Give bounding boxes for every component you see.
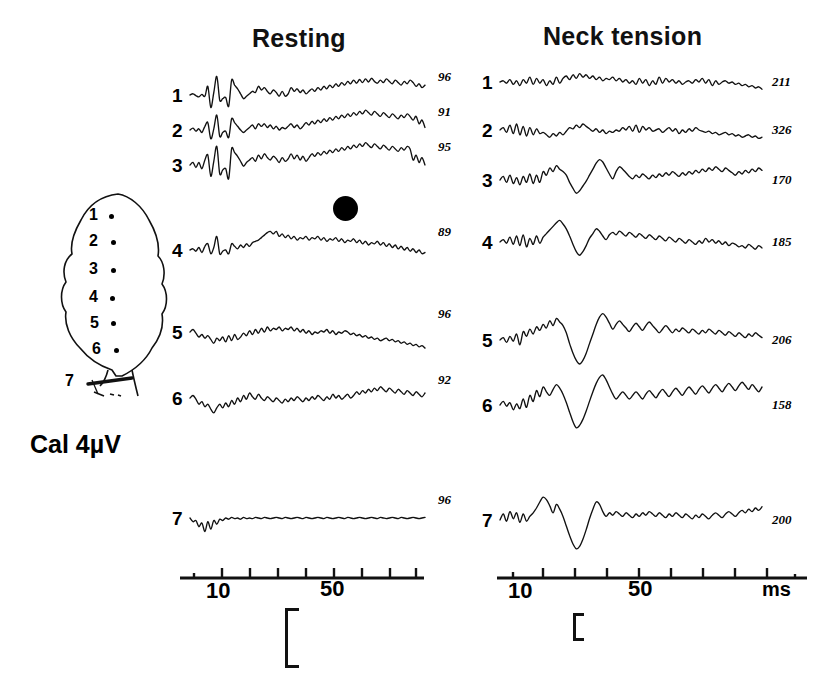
waveform-path (500, 74, 762, 90)
x-axis-neck-label-10: 10 (508, 578, 532, 604)
amplitude-value-resting-7: 96 (438, 492, 451, 508)
waveform-path (190, 143, 425, 179)
waveform-path (190, 327, 425, 348)
trace-label-resting-5: 5 (172, 322, 183, 344)
amplitude-value-resting-4: 89 (438, 224, 451, 240)
head-electrode-label-3: 3 (89, 260, 98, 278)
trace-label-neck-tension-4: 4 (482, 232, 493, 254)
waveform-path (190, 76, 425, 107)
trace-label-resting-4: 4 (172, 240, 183, 262)
trace-label-resting-2: 2 (172, 120, 183, 142)
amplitude-value-resting-2: 91 (438, 104, 451, 120)
panel-title-resting: Resting (252, 24, 346, 53)
amplitude-value-neck-tension-3: 170 (772, 172, 792, 188)
waveform-path (190, 517, 425, 531)
amplitude-value-resting-3: 95 (438, 139, 451, 155)
amplitude-value-neck-tension-5: 206 (772, 332, 792, 348)
trace-label-neck-tension-2: 2 (482, 120, 493, 142)
voltage-calibration-bracket-resting (285, 608, 299, 668)
x-axis-unit-label: ms (762, 578, 791, 601)
amplitude-value-neck-tension-2: 326 (772, 122, 792, 138)
waveform-path (190, 110, 425, 139)
waveform-path (500, 220, 762, 255)
panel-title-neck-tension: Neck tension (543, 22, 702, 51)
amplitude-value-neck-tension-7: 200 (772, 512, 792, 528)
trace-label-resting-6: 6 (172, 388, 183, 410)
x-axis-resting-label-10: 10 (206, 578, 230, 604)
voltage-calibration-bracket-neck (573, 613, 584, 641)
trace-label-neck-tension-5: 5 (482, 330, 493, 352)
waveform-path (500, 314, 762, 364)
head-electrode-label-2: 2 (89, 232, 98, 250)
amplitude-value-resting-6: 92 (438, 372, 451, 388)
trace-label-resting-3: 3 (172, 155, 183, 177)
trace-label-neck-tension-3: 3 (482, 170, 493, 192)
trace-label-neck-tension-6: 6 (482, 395, 493, 417)
head-diagram: 1 2 3 4 5 6 7 (48, 188, 188, 408)
head-electrode-dot-1 (109, 214, 114, 219)
calibration-label: Cal 4µV (30, 430, 121, 459)
waveform-path (190, 387, 425, 413)
amplitude-value-resting-5: 96 (438, 306, 451, 322)
x-axis-neck-label-50: 50 (628, 576, 652, 602)
amplitude-value-neck-tension-1: 211 (772, 74, 791, 90)
amplitude-value-resting-1: 96 (438, 69, 451, 85)
x-axis-resting-label-50: 50 (320, 576, 344, 602)
waveform-path (190, 231, 425, 254)
trace-label-neck-tension-7: 7 (482, 510, 493, 532)
head-electrode-dot-2 (111, 240, 116, 245)
head-electrode-label-7: 7 (65, 372, 74, 390)
head-electrode-dot-5 (111, 321, 116, 326)
trace-label-neck-tension-1: 1 (482, 72, 493, 94)
waveform-path (500, 375, 762, 428)
waveform-path (500, 497, 762, 549)
head-electrode-dot-4 (110, 296, 115, 301)
head-electrode-dot-6 (114, 348, 119, 353)
waveform-path (500, 160, 762, 194)
amplitude-value-neck-tension-6: 158 (772, 397, 792, 413)
head-electrode-label-5: 5 (90, 314, 99, 332)
head-electrode-label-6: 6 (92, 340, 101, 358)
trace-label-resting-1: 1 (172, 85, 183, 107)
waveform-path (500, 124, 762, 138)
head-electrode-label-1: 1 (89, 206, 98, 224)
figure-canvas: Resting Neck tension 1 2 3 4 5 6 7 Cal 4… (0, 0, 836, 697)
head-electrode-label-4: 4 (89, 288, 98, 306)
trace-label-resting-7: 7 (172, 508, 183, 530)
head-electrode-dot-3 (111, 268, 116, 273)
event-marker-dot (333, 196, 358, 221)
amplitude-value-neck-tension-4: 185 (772, 234, 792, 250)
